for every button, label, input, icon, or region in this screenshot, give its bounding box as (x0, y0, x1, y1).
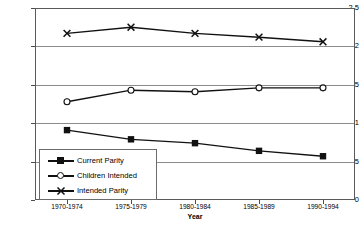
x-tick-mark (195, 200, 196, 204)
data-point-circle (128, 87, 134, 93)
filled-square-marker-icon (48, 155, 74, 166)
x-axis-title: Year (35, 213, 355, 220)
x-tick-label: 1990-1994 (283, 203, 363, 211)
data-point-square (192, 140, 198, 146)
data-point-circle (192, 89, 198, 95)
open-circle-marker-icon (48, 170, 74, 181)
legend-item-intended-parity: Intended Parity (40, 183, 156, 198)
legend-label: Children Intended (77, 171, 137, 180)
x-tick-mark (67, 200, 68, 204)
data-point-square (128, 136, 134, 142)
legend-label: Intended Parity (77, 186, 128, 195)
data-point-square (64, 127, 70, 133)
legend-item-children-intended: Children Intended (40, 168, 156, 183)
data-point-square (320, 153, 326, 159)
legend-label: Current Parity (77, 156, 124, 165)
x-tick-mark (259, 200, 260, 204)
legend: Current Parity Children Intended Intende… (39, 149, 157, 200)
x-tick-mark (323, 200, 324, 204)
x-tick-mark (131, 200, 132, 204)
x-cross-marker-icon (48, 185, 74, 196)
data-point-square (256, 148, 262, 154)
data-point-circle (256, 85, 262, 91)
data-point-circle (320, 85, 326, 91)
series-intended-parity (64, 24, 327, 45)
series-line (67, 27, 323, 42)
legend-item-current-parity: Current Parity (40, 153, 156, 168)
data-point-circle (64, 99, 70, 105)
series-children-intended (64, 85, 326, 105)
